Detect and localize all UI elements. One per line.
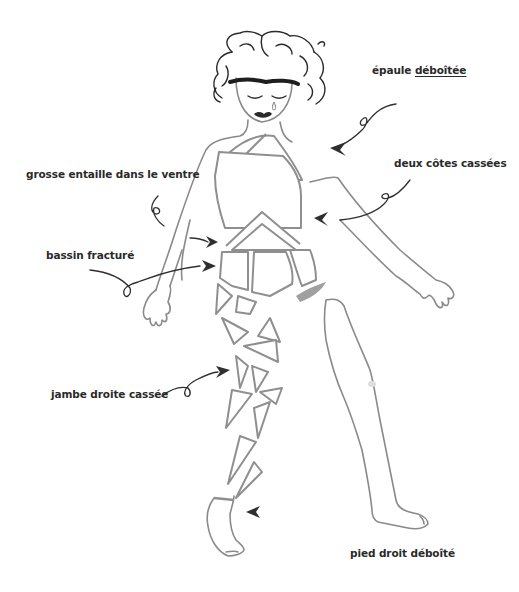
label-broken-ribs: deux côtes cassées bbox=[394, 157, 507, 169]
face bbox=[230, 78, 298, 122]
label-dislocated-foot: pied droit déboîté bbox=[350, 547, 455, 559]
label-belly-cut: grosse entaille dans le ventre bbox=[26, 168, 200, 180]
broken-body-illustration bbox=[0, 0, 519, 592]
label-fractured-pelvis: bassin fracturé bbox=[46, 249, 134, 261]
shards bbox=[215, 134, 326, 498]
label-dislocated-shoulder: épaule déboîtée bbox=[372, 64, 466, 76]
hair bbox=[214, 32, 325, 105]
label-shoulder-emphasis: déboîtée bbox=[415, 64, 466, 76]
label-shoulder-prefix: épaule bbox=[372, 64, 415, 76]
label-broken-leg: jambe droite cassée bbox=[51, 388, 168, 400]
